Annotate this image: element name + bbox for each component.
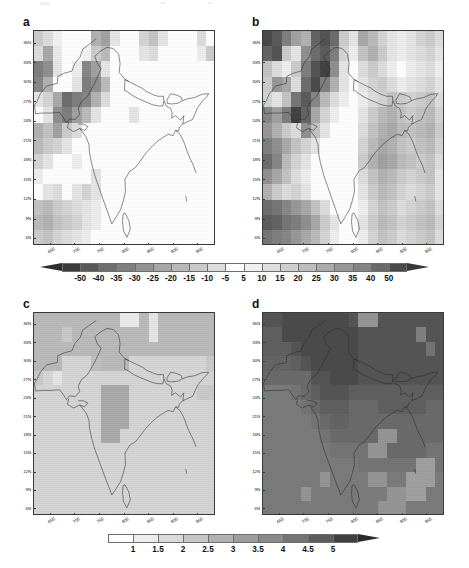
heatmap-cell (435, 342, 444, 357)
y-tick-label: 18N (242, 432, 260, 437)
heatmap-cell (435, 327, 444, 342)
y-tickmark (262, 490, 265, 491)
x-tickmark (303, 513, 304, 516)
y-tickmark (262, 379, 265, 380)
figure-canvas: a36N33N30N27N24N21N18N15N12N9N6N65E70E75… (0, 0, 469, 568)
y-tickmark (262, 453, 265, 454)
x-tickmark (377, 513, 378, 516)
colorbar-tip-left (40, 263, 62, 271)
y-tickmark (262, 508, 265, 509)
y-tick-label: 15N (242, 450, 260, 455)
magnitude-colorbar: 11.522.533.544.55 (108, 534, 358, 558)
heatmap-cell (435, 429, 444, 444)
colorbar-tip-right (407, 263, 429, 271)
anomaly-colorbar: -50-40-35-30-25-20-15-10-551015202530354… (62, 263, 407, 287)
heatmap-cell (435, 458, 444, 473)
heatmap-cell (435, 356, 444, 371)
heatmap-cell (435, 385, 444, 400)
x-tick-label: 95E (421, 514, 436, 526)
y-tick-label: 21N (242, 414, 260, 419)
x-tickmark (426, 513, 427, 516)
colorbar-tip-left (86, 534, 108, 542)
x-tick-label: 80E (347, 514, 362, 526)
y-tickmark (262, 398, 265, 399)
y-tickmark (262, 416, 265, 417)
plot-area-d[interactable] (262, 312, 444, 515)
heatmap-cell (435, 472, 444, 487)
y-tick-label: 12N (242, 469, 260, 474)
x-tickmark (328, 513, 329, 516)
y-tickmark (262, 472, 265, 473)
colorbar-gradient (108, 534, 358, 543)
heatmap-cell (435, 414, 444, 429)
x-tickmark (402, 513, 403, 516)
x-tickmark (279, 513, 280, 516)
y-tickmark (262, 361, 265, 362)
x-tick-label: 75E (322, 514, 337, 526)
y-tickmark (262, 342, 265, 343)
heatmap-cell (435, 501, 444, 515)
colorbar-tick-label: 50 (373, 274, 405, 283)
colorbar-border (62, 263, 407, 272)
colorbar-border (108, 534, 358, 543)
y-tick-label: 9N (242, 487, 260, 492)
x-tick-label: 85E (372, 514, 387, 526)
heatmap-cell (435, 487, 444, 502)
colorbar-tick-label: 5 (317, 545, 349, 554)
x-tick-label: 70E (298, 514, 313, 526)
y-tick-label: 24N (242, 395, 260, 400)
y-tick-label: 30N (242, 358, 260, 363)
y-tick-label: 33N (242, 340, 260, 345)
heatmap-cells-d (263, 313, 443, 514)
heatmap-cell (435, 443, 444, 458)
y-tickmark (262, 435, 265, 436)
colorbar-gradient (62, 263, 407, 272)
y-tick-label: 27N (242, 377, 260, 382)
x-tick-label: 65E (273, 514, 288, 526)
panel-label-d: d (252, 298, 259, 310)
colorbar-tip-right (358, 534, 380, 542)
y-tick-label: 6N (242, 506, 260, 511)
heatmap-cell (435, 313, 444, 328)
x-tickmark (353, 513, 354, 516)
x-tick-label: 90E (396, 514, 411, 526)
heatmap-cell (435, 400, 444, 415)
heatmap-cell (435, 371, 444, 386)
y-tickmark (262, 324, 265, 325)
y-tick-label: 36N (242, 321, 260, 326)
